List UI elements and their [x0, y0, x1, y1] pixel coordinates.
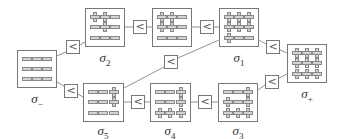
minus-icon: [109, 108, 119, 118]
minus-icon: [155, 87, 165, 97]
node-sigma-2: [85, 8, 125, 47]
minus-icon: [177, 12, 187, 22]
comparator-less-than: <: [265, 75, 279, 89]
plus-icon: [176, 97, 186, 107]
comparator-less-than: <: [164, 55, 178, 69]
label-sigma-3: σ3: [233, 123, 244, 139]
minus-icon: [234, 33, 244, 43]
minus-icon: [100, 33, 110, 43]
plus-icon: [165, 108, 175, 118]
minus-icon: [167, 33, 177, 43]
label-sigma-5: σ5: [98, 123, 109, 139]
minus-icon: [98, 97, 108, 107]
plus-icon: [223, 108, 233, 118]
plus-icon: [312, 48, 322, 58]
plus-icon: [109, 97, 119, 107]
plus-icon: [224, 33, 234, 43]
plus-icon: [224, 22, 234, 32]
minus-icon: [233, 97, 243, 107]
plus-icon: [224, 12, 234, 22]
node-sigma-plus: [287, 44, 327, 83]
minus-icon: [165, 87, 175, 97]
minus-icon: [22, 54, 32, 64]
node-sigma-minus: [17, 50, 57, 88]
plus-icon: [157, 12, 167, 22]
comparator-less-than: <: [66, 40, 80, 54]
minus-icon: [177, 22, 187, 32]
minus-icon: [110, 22, 120, 32]
node-sigma-3: [218, 83, 258, 122]
minus-icon: [177, 33, 187, 43]
plus-icon: [157, 22, 167, 32]
comparator-less-than: <: [64, 84, 78, 98]
minus-icon: [32, 74, 42, 84]
plus-icon: [176, 87, 186, 97]
label-sigma-plus: σ+: [301, 86, 313, 104]
plus-icon: [223, 97, 233, 107]
label-sigma-minus: σ−: [31, 91, 43, 109]
minus-icon: [157, 33, 167, 43]
plus-icon: [243, 108, 253, 118]
plus-icon: [292, 69, 302, 79]
minus-icon: [32, 54, 42, 64]
minus-icon: [88, 87, 98, 97]
minus-icon: [22, 74, 32, 84]
plus-icon: [167, 12, 177, 22]
plus-icon: [312, 69, 322, 79]
plus-icon: [100, 22, 110, 32]
minus-icon: [98, 87, 108, 97]
plus-icon: [312, 58, 322, 68]
plus-icon: [292, 58, 302, 68]
minus-icon: [88, 108, 98, 118]
plus-icon: [90, 12, 100, 22]
minus-icon: [244, 33, 254, 43]
plus-icon: [244, 22, 254, 32]
plus-icon: [302, 69, 312, 79]
minus-icon: [32, 64, 42, 74]
minus-icon: [223, 87, 233, 97]
plus-icon: [155, 108, 165, 118]
plus-icon: [302, 58, 312, 68]
minus-icon: [90, 22, 100, 32]
node-sigma-mid: [152, 8, 192, 47]
label-sigma-2: σ2: [100, 50, 111, 68]
comparator-less-than: <: [198, 95, 212, 109]
comparator-less-than: <: [200, 20, 214, 34]
minus-icon: [110, 12, 120, 22]
node-sigma-5: [83, 83, 124, 122]
minus-icon: [233, 87, 243, 97]
plus-icon: [302, 48, 312, 58]
plus-icon: [244, 12, 254, 22]
minus-icon: [88, 97, 98, 107]
minus-icon: [165, 97, 175, 107]
minus-icon: [90, 33, 100, 43]
plus-icon: [243, 87, 253, 97]
minus-icon: [155, 97, 165, 107]
comparator-less-than: <: [133, 20, 147, 34]
minus-icon: [110, 33, 120, 43]
label-sigma-1: σ1: [234, 50, 245, 68]
comparator-less-than: <: [131, 95, 145, 109]
plus-icon: [176, 108, 186, 118]
label-sigma-4: σ4: [165, 123, 176, 139]
plus-icon: [243, 97, 253, 107]
node-sigma-4: [150, 83, 191, 122]
minus-icon: [42, 64, 52, 74]
minus-icon: [42, 74, 52, 84]
plus-icon: [109, 87, 119, 97]
minus-icon: [98, 108, 108, 118]
plus-icon: [234, 12, 244, 22]
minus-icon: [42, 54, 52, 64]
plus-icon: [234, 22, 244, 32]
plus-icon: [292, 48, 302, 58]
comparator-less-than: <: [266, 40, 280, 54]
node-sigma-1: [219, 8, 259, 47]
plus-icon: [167, 22, 177, 32]
plus-icon: [100, 12, 110, 22]
minus-icon: [22, 64, 32, 74]
plus-icon: [233, 108, 243, 118]
